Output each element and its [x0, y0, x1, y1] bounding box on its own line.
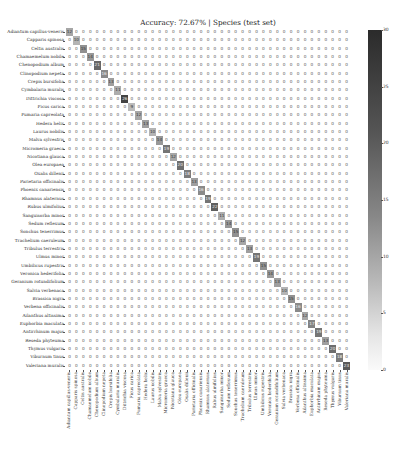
matrix-cell: 0: [329, 161, 336, 169]
column-label: Reseda phyteuma: [323, 372, 328, 411]
matrix-cell: 0: [211, 186, 218, 194]
matrix-cell: 0: [73, 237, 80, 245]
matrix-cell: 0: [225, 228, 232, 236]
matrix-cell: 0: [308, 195, 315, 203]
matrix-cell: 0: [260, 337, 267, 345]
matrix-cell: 0: [246, 70, 253, 78]
matrix-cell: 15: [260, 262, 267, 270]
matrix-cell: 0: [295, 245, 302, 253]
matrix-cell: 0: [198, 36, 205, 44]
matrix-cell: 0: [308, 128, 315, 136]
matrix-cell: 0: [343, 295, 350, 303]
matrix-cell: 0: [343, 45, 350, 53]
matrix-cell: 0: [184, 153, 191, 161]
matrix-cell: 0: [329, 195, 336, 203]
matrix-cell: 0: [302, 362, 309, 370]
matrix-cell: 0: [177, 170, 184, 178]
matrix-cell: 0: [225, 178, 232, 186]
matrix-cell: 0: [163, 186, 170, 194]
matrix-cell: 0: [343, 86, 350, 94]
matrix-cell: 0: [66, 78, 73, 86]
matrix-cell: 0: [114, 353, 121, 361]
row-label: Rubus ulmifolius: [27, 203, 64, 211]
matrix-cell: 0: [225, 36, 232, 44]
matrix-cell: 0: [170, 45, 177, 53]
matrix-cell: 0: [281, 203, 288, 211]
matrix-cell: 0: [135, 345, 142, 353]
matrix-cell: 0: [135, 61, 142, 69]
column-tick: [125, 370, 126, 372]
matrix-cell: 0: [288, 353, 295, 361]
matrix-cell: 0: [329, 320, 336, 328]
matrix-cell: 0: [73, 120, 80, 128]
matrix-cell: 0: [218, 170, 225, 178]
matrix-cell: 0: [184, 362, 191, 370]
matrix-cell: 0: [177, 270, 184, 278]
matrix-cell: 0: [121, 186, 128, 194]
matrix-cell: 0: [80, 86, 87, 94]
matrix-cell: 0: [101, 245, 108, 253]
matrix-cell: 0: [205, 295, 212, 303]
matrix-cell: 0: [142, 312, 149, 320]
matrix-cell: 0: [163, 253, 170, 261]
matrix-cell: 0: [232, 328, 239, 336]
matrix-cell: 0: [80, 195, 87, 203]
matrix-cell: 0: [198, 95, 205, 103]
matrix-cell: 0: [253, 170, 260, 178]
matrix-cell: 0: [149, 245, 156, 253]
matrix-cell: 0: [225, 212, 232, 220]
matrix-cell: 0: [191, 262, 198, 270]
matrix-cell: 0: [260, 153, 267, 161]
matrix-cell: 0: [135, 170, 142, 178]
matrix-cell: 0: [170, 262, 177, 270]
matrix-cell: 0: [163, 312, 170, 320]
matrix-cell: 0: [308, 353, 315, 361]
row-tick: [63, 32, 65, 33]
matrix-cell: 0: [288, 128, 295, 136]
matrix-cell: 0: [94, 95, 101, 103]
matrix-cell: 0: [128, 278, 135, 286]
matrix-cell: 0: [101, 220, 108, 228]
matrix-cell: 0: [211, 220, 218, 228]
matrix-cell: 0: [128, 237, 135, 245]
matrix-cell: 0: [260, 120, 267, 128]
matrix-cell: 0: [177, 186, 184, 194]
matrix-cell: 0: [198, 320, 205, 328]
matrix-cell: 18: [184, 170, 191, 178]
matrix-cell: 0: [315, 70, 322, 78]
matrix-cell: 0: [281, 186, 288, 194]
column-label: Veronica hederifolia: [267, 372, 272, 416]
matrix-cell: 0: [315, 228, 322, 236]
matrix-cell: 0: [329, 203, 336, 211]
matrix-cell: 0: [149, 153, 156, 161]
matrix-cell: 0: [198, 170, 205, 178]
matrix-cell: 0: [336, 53, 343, 61]
matrix-cell: 0: [336, 45, 343, 53]
matrix-cell: 0: [267, 320, 274, 328]
matrix-cell: 0: [205, 45, 212, 53]
matrix-cell: 0: [205, 237, 212, 245]
matrix-cell: 0: [267, 45, 274, 53]
matrix-cell: 0: [260, 278, 267, 286]
matrix-cell: 0: [149, 70, 156, 78]
matrix-cell: 0: [87, 328, 94, 336]
column-tick: [111, 370, 112, 372]
matrix-cell: 0: [295, 120, 302, 128]
matrix-cell: 0: [253, 53, 260, 61]
matrix-cell: 0: [163, 228, 170, 236]
column-label: Rhamnus alaternus: [205, 372, 210, 414]
matrix-cell: 0: [142, 287, 149, 295]
matrix-cell: 0: [177, 153, 184, 161]
matrix-cell: 0: [232, 295, 239, 303]
matrix-cell: 0: [177, 245, 184, 253]
matrix-cell: 0: [142, 228, 149, 236]
matrix-cell: 0: [142, 70, 149, 78]
matrix-cell: 0: [108, 103, 115, 111]
matrix-cell: 0: [108, 145, 115, 153]
matrix-cell: 0: [225, 203, 232, 211]
matrix-cell: 0: [128, 362, 135, 370]
matrix-cell: 0: [114, 345, 121, 353]
matrix-cell: 0: [170, 111, 177, 119]
matrix-cell: 0: [239, 287, 246, 295]
matrix-cell: 0: [274, 203, 281, 211]
